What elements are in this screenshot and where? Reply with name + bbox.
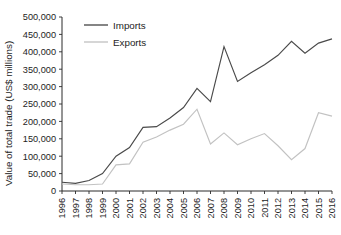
x-tick-label: 2016 bbox=[327, 198, 337, 218]
chart-canvas: 050,000100,000150,000200,000250,000300,0… bbox=[0, 0, 341, 235]
series-line-imports bbox=[62, 39, 332, 183]
y-tick-label: 450,000 bbox=[23, 30, 56, 40]
x-tick-label: 2009 bbox=[233, 198, 243, 218]
line-chart: 050,000100,000150,000200,000250,000300,0… bbox=[0, 0, 341, 235]
y-tick-label: 250,000 bbox=[23, 99, 56, 109]
x-tick-label: 2010 bbox=[246, 198, 256, 218]
x-tick-label: 2002 bbox=[138, 198, 148, 218]
x-tick-label: 1998 bbox=[84, 198, 94, 218]
x-tick-label: 2011 bbox=[260, 198, 270, 218]
y-tick-label: 350,000 bbox=[23, 65, 56, 75]
y-axis: 050,000100,000150,000200,000250,000300,0… bbox=[23, 12, 62, 196]
y-tick-label: 150,000 bbox=[23, 134, 56, 144]
x-tick-label: 2004 bbox=[165, 198, 175, 218]
x-axis-ticks bbox=[62, 191, 332, 194]
x-tick-label: 1996 bbox=[57, 198, 67, 218]
y-tick-label: 100,000 bbox=[23, 152, 56, 162]
x-tick-label: 2014 bbox=[300, 198, 310, 218]
y-tick-label: 200,000 bbox=[23, 117, 56, 127]
y-tick-label: 400,000 bbox=[23, 47, 56, 57]
y-axis-title: Value of total trade (US$ millions) bbox=[3, 41, 14, 186]
x-tick-label: 2003 bbox=[152, 198, 162, 218]
x-tick-label: 1997 bbox=[71, 198, 81, 218]
data-series-group bbox=[62, 39, 332, 185]
x-tick-label: 2000 bbox=[111, 198, 121, 218]
x-tick-label: 2001 bbox=[125, 198, 135, 218]
x-tick-label: 2012 bbox=[273, 198, 283, 218]
y-tick-label: 50,000 bbox=[28, 169, 56, 179]
y-tick-label: 300,000 bbox=[23, 82, 56, 92]
x-axis: 1996199719981999200020012002200320042005… bbox=[57, 191, 337, 218]
y-tick-label: 0 bbox=[51, 186, 56, 196]
x-tick-label: 2007 bbox=[206, 198, 216, 218]
legend-label-exports: Exports bbox=[113, 37, 146, 48]
y-axis-tick-labels: 050,000100,000150,000200,000250,000300,0… bbox=[23, 12, 56, 196]
x-tick-label: 2006 bbox=[192, 198, 202, 218]
x-tick-label: 2008 bbox=[219, 198, 229, 218]
x-tick-label: 2013 bbox=[287, 198, 297, 218]
x-tick-label: 2005 bbox=[179, 198, 189, 218]
x-tick-label: 1999 bbox=[98, 198, 108, 218]
chart-legend: Imports Exports bbox=[84, 20, 146, 48]
legend-label-imports: Imports bbox=[113, 20, 146, 31]
y-tick-label: 500,000 bbox=[23, 12, 56, 22]
x-tick-label: 2015 bbox=[314, 198, 324, 218]
x-axis-tick-labels: 1996199719981999200020012002200320042005… bbox=[57, 198, 337, 218]
